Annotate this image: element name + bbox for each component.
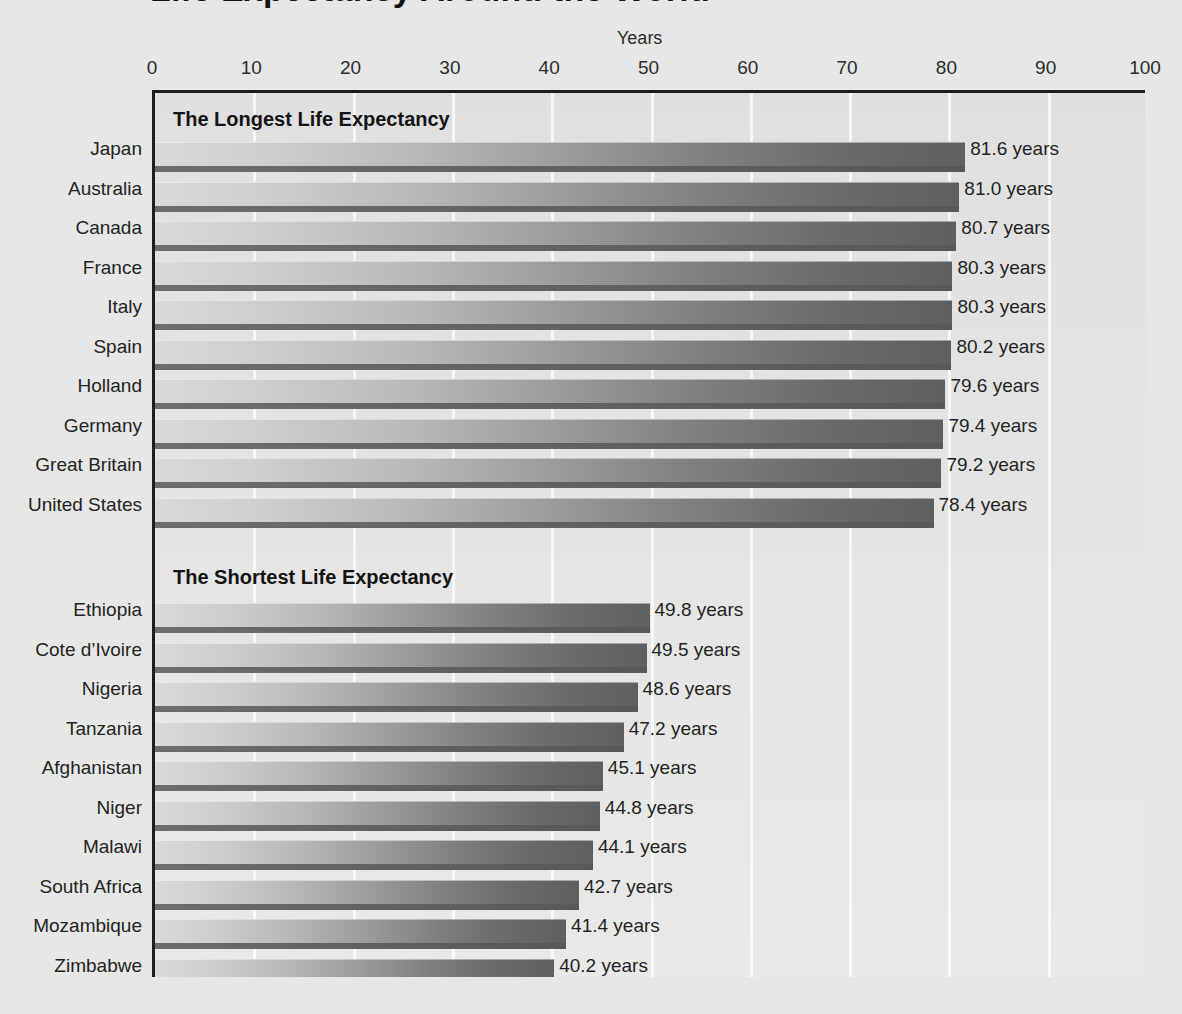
bar bbox=[155, 761, 603, 791]
value-label: 48.6 years bbox=[643, 678, 732, 700]
bar-body bbox=[155, 221, 956, 245]
bar-body bbox=[155, 142, 965, 166]
bar-body bbox=[155, 458, 941, 482]
value-label: 81.0 years bbox=[964, 178, 1053, 200]
bar-body bbox=[155, 603, 650, 627]
bar bbox=[155, 682, 638, 712]
value-label: 42.7 years bbox=[584, 876, 673, 898]
category-label: Zimbabwe bbox=[0, 955, 142, 977]
bar-body bbox=[155, 801, 600, 825]
category-label: Holland bbox=[0, 375, 142, 397]
value-label: 79.2 years bbox=[946, 454, 1035, 476]
x-tick-label-70: 70 bbox=[837, 57, 858, 79]
bar-shadow bbox=[155, 443, 943, 449]
value-label: 49.8 years bbox=[655, 599, 744, 621]
category-label: Japan bbox=[0, 138, 142, 160]
value-label: 41.4 years bbox=[571, 915, 660, 937]
x-tick-label-90: 90 bbox=[1035, 57, 1056, 79]
category-label: Germany bbox=[0, 415, 142, 437]
bar-body bbox=[155, 261, 952, 285]
x-tick-label-80: 80 bbox=[936, 57, 957, 79]
bar bbox=[155, 959, 554, 978]
value-label: 80.7 years bbox=[961, 217, 1050, 239]
value-label: 81.6 years bbox=[970, 138, 1059, 160]
category-label: Italy bbox=[0, 296, 142, 318]
category-label: Tanzania bbox=[0, 718, 142, 740]
bar-shadow bbox=[155, 746, 624, 752]
x-tick-label-100: 100 bbox=[1129, 57, 1161, 79]
bar bbox=[155, 142, 965, 172]
bar-body bbox=[155, 419, 943, 443]
bar bbox=[155, 340, 951, 370]
value-label: 79.4 years bbox=[948, 415, 1037, 437]
category-label: Malawi bbox=[0, 836, 142, 858]
value-label: 79.6 years bbox=[950, 375, 1039, 397]
bar-shadow bbox=[155, 482, 941, 488]
value-label: 40.2 years bbox=[559, 955, 648, 977]
value-label: 80.2 years bbox=[956, 336, 1045, 358]
category-label: Spain bbox=[0, 336, 142, 358]
bar-shadow bbox=[155, 825, 600, 831]
bar-shadow bbox=[155, 904, 579, 910]
category-label: Afghanistan bbox=[0, 757, 142, 779]
bar-shadow bbox=[155, 627, 650, 633]
bar-body bbox=[155, 498, 934, 522]
section-heading-2: The Shortest Life Expectancy bbox=[173, 566, 453, 589]
value-label: 44.8 years bbox=[605, 797, 694, 819]
value-label: 45.1 years bbox=[608, 757, 697, 779]
page-title: Life Expectancy Around the World bbox=[150, 0, 1050, 9]
bar-body bbox=[155, 300, 952, 324]
bar bbox=[155, 880, 579, 910]
x-axis-tick-labels: 0102030405060708090100 bbox=[0, 57, 1182, 83]
x-tick-label-20: 20 bbox=[340, 57, 361, 79]
bar-shadow bbox=[155, 706, 638, 712]
value-label: 80.3 years bbox=[957, 257, 1046, 279]
bar bbox=[155, 801, 600, 831]
bar-shadow bbox=[155, 667, 647, 673]
x-tick-label-0: 0 bbox=[147, 57, 158, 79]
bar bbox=[155, 498, 934, 528]
bar-shadow bbox=[155, 166, 965, 172]
bar-body bbox=[155, 643, 647, 667]
bar-shadow bbox=[155, 403, 945, 409]
bar bbox=[155, 840, 593, 870]
category-label: South Africa bbox=[0, 876, 142, 898]
category-label: Canada bbox=[0, 217, 142, 239]
category-label: Australia bbox=[0, 178, 142, 200]
x-tick-label-10: 10 bbox=[241, 57, 262, 79]
bar bbox=[155, 221, 956, 251]
bar bbox=[155, 379, 945, 409]
bar-body bbox=[155, 340, 951, 364]
bar bbox=[155, 722, 624, 752]
value-label: 80.3 years bbox=[957, 296, 1046, 318]
x-tick-label-40: 40 bbox=[539, 57, 560, 79]
bar bbox=[155, 261, 952, 291]
bar-body bbox=[155, 182, 959, 206]
value-label: 47.2 years bbox=[629, 718, 718, 740]
value-label: 78.4 years bbox=[939, 494, 1028, 516]
value-label: 49.5 years bbox=[652, 639, 741, 661]
category-label: United States bbox=[0, 494, 142, 516]
bar bbox=[155, 300, 952, 330]
bar-body bbox=[155, 880, 579, 904]
bar-shadow bbox=[155, 785, 603, 791]
category-label: Nigeria bbox=[0, 678, 142, 700]
x-tick-label-60: 60 bbox=[737, 57, 758, 79]
value-label: 44.1 years bbox=[598, 836, 687, 858]
bar-shadow bbox=[155, 324, 952, 330]
bar-shadow bbox=[155, 245, 956, 251]
bar bbox=[155, 458, 941, 488]
bar-body bbox=[155, 919, 566, 943]
bar-shadow bbox=[155, 206, 959, 212]
category-label: Ethiopia bbox=[0, 599, 142, 621]
category-label: Cote d’Ivoire bbox=[0, 639, 142, 661]
bar bbox=[155, 419, 943, 449]
bar-body bbox=[155, 840, 593, 864]
bar bbox=[155, 182, 959, 212]
bar-body bbox=[155, 722, 624, 746]
bar bbox=[155, 643, 647, 673]
bar-body bbox=[155, 682, 638, 706]
x-axis-title-label: Years bbox=[617, 28, 662, 49]
bar bbox=[155, 603, 650, 633]
bar bbox=[155, 919, 566, 949]
